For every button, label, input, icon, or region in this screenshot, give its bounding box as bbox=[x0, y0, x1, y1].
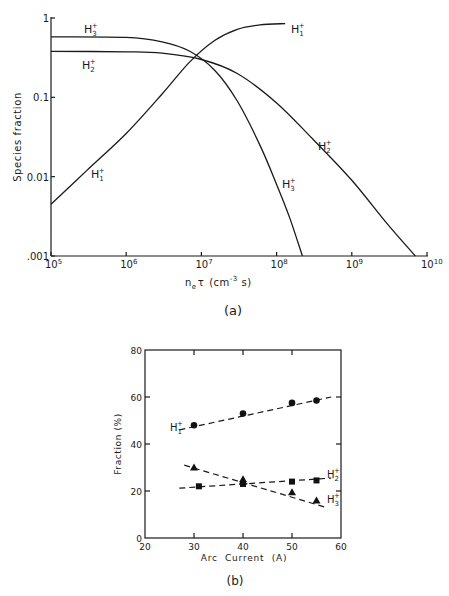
b-x-axis-title: Arc Current (A) bbox=[201, 553, 288, 563]
a-label-h3-right: H3+ bbox=[282, 177, 296, 193]
b-x-ticks: 2030405060 bbox=[139, 350, 347, 552]
a-label-h3: H3+ bbox=[84, 22, 98, 38]
a-x-tick-label: 108 bbox=[271, 258, 288, 270]
b-x-tick-label: 30 bbox=[188, 542, 200, 552]
a-curve-h1plus bbox=[51, 24, 285, 205]
a-x-tick-label: 105 bbox=[45, 258, 62, 270]
a-x-tick-label: 109 bbox=[346, 258, 363, 270]
b-point-h3plus bbox=[190, 464, 198, 471]
a-curves bbox=[51, 24, 415, 256]
a-label-h1: H1+ bbox=[91, 167, 105, 183]
b-fit-h1plus bbox=[179, 397, 331, 430]
a-x-tick-label: 1010 bbox=[421, 258, 443, 270]
a-label-h2-right: H2+ bbox=[318, 139, 332, 155]
b-y-tick-label: 20 bbox=[131, 487, 143, 497]
panel-a: 10.10.01.001 1051061071081091010 H3+ H2+… bbox=[12, 13, 443, 318]
b-point-h2plus bbox=[289, 479, 295, 485]
b-x-tick-label: 50 bbox=[286, 542, 298, 552]
b-point-h1plus bbox=[313, 397, 320, 404]
b-y-ticks: 020406080 bbox=[131, 346, 341, 544]
b-markers bbox=[190, 397, 321, 503]
figure: 10.10.01.001 1051061071081091010 H3+ H2+… bbox=[0, 0, 449, 596]
b-y-axis-title: Fraction (%) bbox=[113, 413, 123, 475]
b-fit-lines bbox=[179, 397, 331, 507]
b-x-tick-label: 40 bbox=[237, 542, 249, 552]
b-point-h1plus bbox=[191, 422, 198, 429]
b-y-tick-label: 80 bbox=[131, 346, 143, 356]
b-y-tick-label: 60 bbox=[131, 393, 143, 403]
a-y-axis-title: Species fraction bbox=[12, 92, 23, 182]
b-label-h3: H3+ bbox=[327, 492, 340, 508]
b-y-tick-label: 40 bbox=[131, 440, 143, 450]
a-x-tick-label: 107 bbox=[195, 258, 212, 270]
b-fit-h3plus bbox=[184, 465, 326, 507]
a-y-tick-label: 0.1 bbox=[33, 92, 49, 103]
b-point-h2plus bbox=[196, 483, 202, 489]
b-point-h1plus bbox=[289, 400, 296, 407]
a-y-tick-label: 0.01 bbox=[27, 172, 49, 183]
b-label-h1: H1+ bbox=[170, 420, 183, 436]
a-x-tick-label: 106 bbox=[120, 258, 138, 270]
b-point-h3plus bbox=[313, 496, 321, 503]
b-label-h2: H2+ bbox=[327, 467, 340, 483]
a-x-axis-title: neτ(cm-3 s) bbox=[185, 275, 252, 291]
a-label-h2: H2+ bbox=[82, 58, 96, 74]
b-x-tick-label: 60 bbox=[335, 542, 347, 552]
panel-b: 020406080 2030405060 H1+ H2+ H3+ Fractio… bbox=[113, 346, 347, 588]
a-x-ticks: 1051061071081091010 bbox=[45, 252, 443, 270]
a-panel-label: (a) bbox=[224, 303, 242, 318]
a-y-tick-label: 1 bbox=[43, 13, 49, 24]
b-point-h3plus bbox=[288, 488, 296, 495]
b-plot-frame bbox=[145, 350, 341, 538]
b-point-h2plus bbox=[314, 477, 320, 483]
b-x-tick-label: 20 bbox=[139, 542, 151, 552]
a-label-h1-top: H1+ bbox=[291, 22, 305, 38]
b-panel-label: (b) bbox=[227, 574, 244, 588]
b-point-h1plus bbox=[240, 410, 247, 417]
